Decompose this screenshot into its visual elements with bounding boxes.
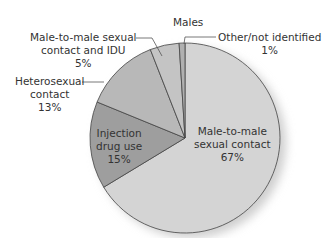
chart-title: Males <box>173 16 203 29</box>
label-line: sexual contact <box>194 138 271 151</box>
label-line: contact <box>15 88 84 101</box>
label-msm-idu: Male-to-male sexual contact and IDU 5% <box>30 31 137 70</box>
label-msm: Male-to-male sexual contact 67% <box>194 125 271 164</box>
label-value: 15% <box>96 153 142 166</box>
label-other: Other/not identified 1% <box>218 31 321 57</box>
label-line: Injection <box>96 127 142 140</box>
label-line: drug use <box>96 140 142 153</box>
label-value: 5% <box>30 57 137 70</box>
label-line: Other/not identified <box>218 31 321 44</box>
label-idu: Injection drug use 15% <box>96 127 142 166</box>
label-line: Male-to-male <box>194 125 271 138</box>
label-line: Heterosexual <box>15 75 84 88</box>
label-value: 67% <box>194 151 271 164</box>
label-line: contact and IDU <box>30 44 137 57</box>
label-hetero: Heterosexual contact 13% <box>15 75 84 114</box>
label-line: Male-to-male sexual <box>30 31 137 44</box>
label-value: 1% <box>218 44 321 57</box>
label-value: 13% <box>15 101 84 114</box>
